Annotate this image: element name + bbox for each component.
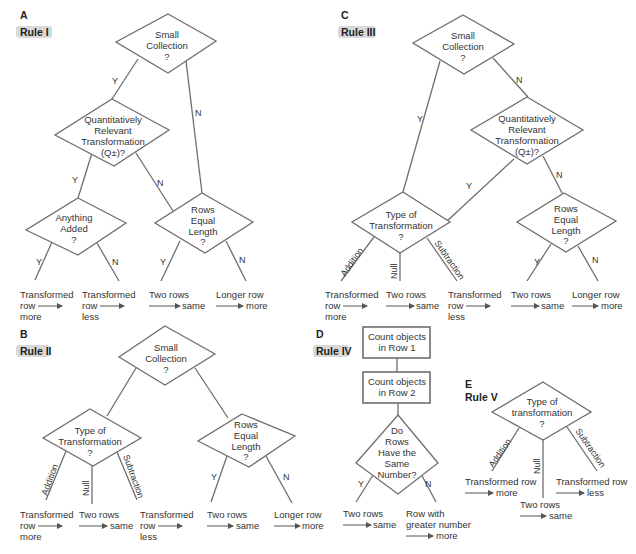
diagram-text: (Q±)? xyxy=(515,146,539,157)
diagram-text: Collection xyxy=(442,41,484,52)
diagram-text: Transformed xyxy=(448,289,502,300)
diagram-text: Y xyxy=(160,257,166,267)
diagram-text: same xyxy=(549,510,572,521)
diagram-text: Y xyxy=(534,257,540,267)
diagram-text: Transformed row xyxy=(465,476,537,487)
diagram-text: Y xyxy=(211,472,217,482)
diagram-text: Y xyxy=(466,181,472,191)
diagram-text: Addition xyxy=(338,246,365,278)
diagram-text: Transformation xyxy=(81,136,145,147)
diagram-text: Rule V xyxy=(465,391,498,403)
diagram-text: N xyxy=(516,75,523,85)
diagram-text: more xyxy=(325,311,347,322)
diagram-text: more xyxy=(302,520,324,531)
diagram-text: Relevant xyxy=(94,125,132,136)
diagram-text: row xyxy=(325,300,340,311)
diagram-text: Same xyxy=(385,458,410,469)
diagram-text: Rows xyxy=(234,419,258,430)
diagram-text: Transformed xyxy=(20,509,74,520)
diagram-text: Subtraction xyxy=(573,426,607,469)
diagram-text: ? xyxy=(200,236,205,247)
diagram-text: Quantitatively xyxy=(498,113,556,124)
diagram-text: row xyxy=(82,300,97,311)
diagram-text: Row with xyxy=(406,508,445,519)
diagram-text: Equal xyxy=(554,214,578,225)
diagram-text: ? xyxy=(87,447,92,458)
diagram-text: Small xyxy=(154,342,178,353)
diagram-text: ? xyxy=(460,52,465,63)
diagram-text: Quantitatively xyxy=(84,114,142,125)
diagram-text: same xyxy=(182,300,205,311)
diagram-text: ? xyxy=(398,231,403,242)
diagram-text: Have the xyxy=(378,447,416,458)
connector-line xyxy=(446,159,514,222)
diagram-text: Type of xyxy=(385,209,417,220)
diagram-text: N xyxy=(112,257,119,267)
diagram-text: Transformed row xyxy=(556,476,628,487)
diagram-text: Type of xyxy=(74,425,106,436)
diagram-text: same xyxy=(541,300,564,311)
diagram-text: Relevant xyxy=(508,124,546,135)
diagram-text: Collection xyxy=(146,40,188,51)
diagram-text: row xyxy=(448,300,463,311)
diagram-text: more xyxy=(601,300,623,311)
diagram-text: same xyxy=(236,520,259,531)
diagram-text: Transformation xyxy=(58,436,122,447)
connector-line xyxy=(195,368,228,418)
connector-line xyxy=(136,153,173,211)
diagram-text: Two rows xyxy=(79,509,119,520)
diagram-text: more xyxy=(496,487,518,498)
diagram-text: Null xyxy=(389,263,399,279)
diagram-text: Subtraction xyxy=(432,238,466,281)
diagram-text: E xyxy=(465,378,472,390)
diagram-text: more xyxy=(246,300,268,311)
diagram-text: N xyxy=(592,255,599,265)
decision-tree-figure: A Rule I Small Collection ? Quantitative… xyxy=(0,0,636,554)
diagram-text: Small xyxy=(155,29,179,40)
diagram-text: ? xyxy=(563,235,568,246)
diagram-text: Number? xyxy=(377,469,416,480)
diagram-text: Transformed xyxy=(140,509,194,520)
diagram-text: Two rows xyxy=(207,509,247,520)
diagram-text: N xyxy=(195,108,202,118)
diagram-text: Null xyxy=(532,458,542,474)
panel-letter: A xyxy=(20,9,28,21)
connector-line xyxy=(493,58,528,97)
diagram-text: less xyxy=(140,531,157,542)
diagram-text: Addition xyxy=(486,437,513,469)
diagram-text: less xyxy=(587,487,604,498)
diagram-text: more xyxy=(20,311,42,322)
diagram-text: row xyxy=(140,520,155,531)
diagram-text: Y xyxy=(417,114,423,124)
diagram-text: Count objects xyxy=(368,376,426,387)
diagram-text: Y xyxy=(72,175,78,185)
diagram-text: N xyxy=(556,170,563,180)
diagram-text: Collection xyxy=(145,353,187,364)
diagram-text: Rule II xyxy=(20,345,52,357)
diagram-text: less xyxy=(82,311,99,322)
diagram-text: Count objects xyxy=(368,331,426,342)
diagram-text: same xyxy=(110,520,133,531)
outcomes-a: Transformed row more Transformed row les… xyxy=(20,289,268,322)
diagram-text: Anything xyxy=(56,212,93,223)
diagram-text: Equal xyxy=(234,430,258,441)
panel-e: E Rule V Type of transformation ? Additi… xyxy=(465,378,628,521)
diagram-text: Rows xyxy=(385,436,409,447)
diagram-text: N xyxy=(239,255,246,265)
diagram-text: Rows xyxy=(191,204,215,215)
diagram-text: Two rows xyxy=(386,289,426,300)
diagram-text: Transformation xyxy=(369,220,433,231)
diagram-text: same xyxy=(373,519,396,530)
diagram-text: Longer row xyxy=(274,509,322,520)
diagram-text: more xyxy=(436,530,458,541)
diagram-text: ? xyxy=(71,234,76,245)
diagram-text: Rule III xyxy=(341,26,376,38)
diagram-text: C xyxy=(341,9,349,21)
diagram-text: Two rows xyxy=(149,289,189,300)
diagram-text: in Row 1 xyxy=(379,342,416,353)
diagram-text: N xyxy=(425,479,432,489)
diagram-text: Do xyxy=(391,425,403,436)
panel-d: D Rule IV Count objects in Row 1 Count o… xyxy=(313,327,471,541)
diagram-text: (Q±)? xyxy=(101,147,125,158)
diagram-text: more xyxy=(20,531,42,542)
